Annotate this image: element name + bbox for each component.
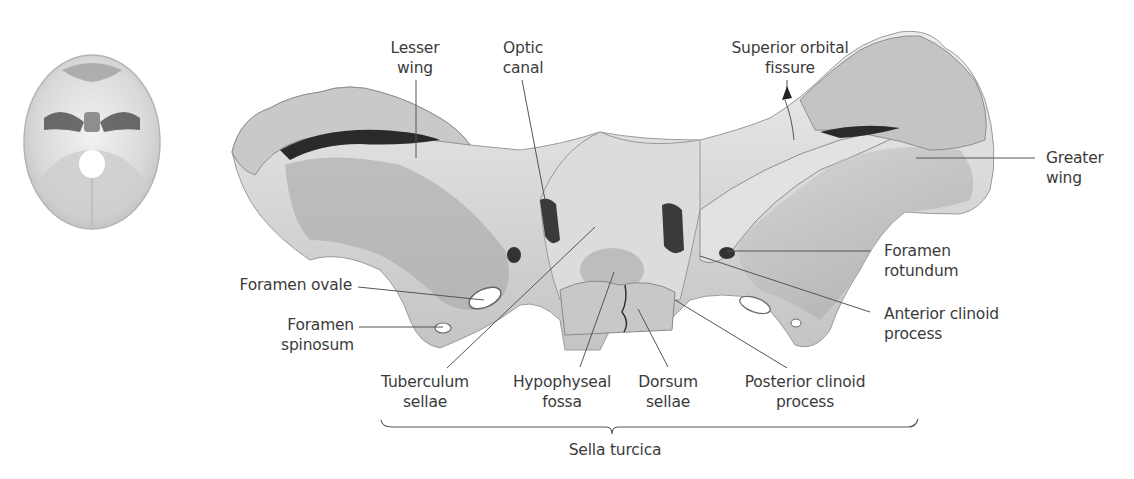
label-lesser-wing: Lesser wing <box>375 38 455 78</box>
skull-base-inset <box>24 55 160 229</box>
label-optic-canal: Optic canal <box>490 38 556 78</box>
label-dorsum-sellae: Dorsum sellae <box>628 372 708 412</box>
sphenoid-bone <box>232 31 994 350</box>
label-posterior-clinoid-process: Posterior clinoid process <box>730 372 880 412</box>
label-foramen-ovale: Foramen ovale <box>200 275 352 295</box>
label-hypophyseal-fossa: Hypophyseal fossa <box>506 372 618 412</box>
arrowhead-icon <box>782 86 792 100</box>
label-sella-turcica: Sella turcica <box>560 440 670 460</box>
label-tuberculum-sellae: Tuberculum sellae <box>370 372 480 412</box>
label-superior-orbital-fissure: Superior orbital fissure <box>720 38 860 78</box>
label-greater-wing: Greater wing <box>1046 148 1104 188</box>
label-anterior-clinoid-process: Anterior clinoid process <box>884 304 999 344</box>
label-foramen-spinosum: Foramen spinosum <box>240 315 354 355</box>
label-foramen-rotundum: Foramen rotundum <box>884 241 958 281</box>
sella-turcica-brace <box>381 419 918 434</box>
anatomy-figure: Lesser wing Optic canal Superior orbital… <box>0 0 1134 479</box>
